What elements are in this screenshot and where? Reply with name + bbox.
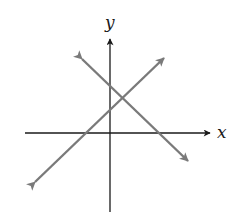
coordinate-diagram: y x (0, 0, 238, 220)
y-axis-label: y (104, 12, 115, 32)
x-axis-label: x (217, 122, 227, 142)
line-negative-slope (82, 59, 188, 161)
